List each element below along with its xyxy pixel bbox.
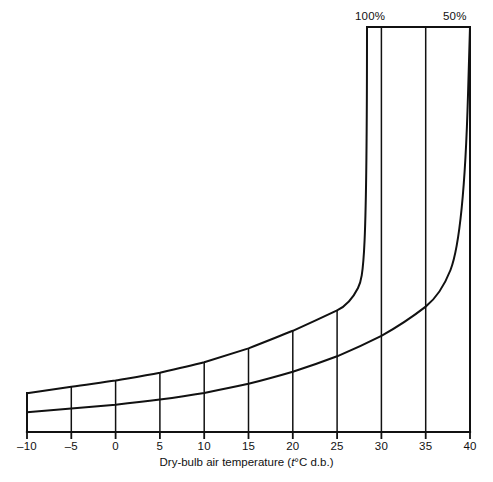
- x-axis-title-prefix: Dry-bulb air temperature (: [160, 456, 292, 468]
- tick-label-15: 15: [242, 440, 255, 452]
- tick-label-minus5: –5: [65, 440, 78, 452]
- chart-canvas: [0, 0, 493, 482]
- tick-label-minus10: –10: [17, 440, 37, 452]
- tick-label-30: 30: [375, 440, 388, 452]
- curve-label-50-percent: 50%: [443, 10, 467, 22]
- tick-label-25: 25: [330, 440, 343, 452]
- tick-label-20: 20: [286, 440, 299, 452]
- grid-lines: [71, 27, 425, 432]
- tick-label-35: 35: [419, 440, 432, 452]
- curve-label-100-percent: 100%: [355, 10, 385, 22]
- tick-label-10: 10: [198, 440, 211, 452]
- tick-label-40: 40: [463, 440, 476, 452]
- tick-label-5: 5: [157, 440, 164, 452]
- x-axis-title: Dry-bulb air temperature (t°C d.b.): [0, 456, 493, 468]
- saturation-curve-100: [27, 27, 367, 393]
- psychrometric-chart: 100% 50% –10 –5 0 5 10 15 20 25 30 35 40…: [0, 0, 493, 482]
- x-axis-title-suffix: °C d.b.): [294, 456, 333, 468]
- tick-label-0: 0: [112, 440, 119, 452]
